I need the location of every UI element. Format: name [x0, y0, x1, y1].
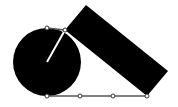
- geometry-diagram: [0, 0, 178, 107]
- marker-point: [63, 28, 67, 32]
- marker-point: [78, 94, 82, 98]
- rotated-rectangle: [65, 5, 168, 96]
- marker-point: [45, 94, 49, 98]
- marker-point: [145, 94, 149, 98]
- marker-point: [45, 26, 49, 30]
- marker-point: [111, 94, 115, 98]
